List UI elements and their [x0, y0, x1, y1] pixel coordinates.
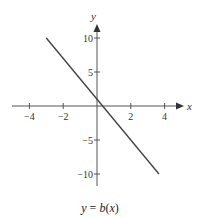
y-tick-label: −10: [77, 169, 93, 180]
y-tick-label: 5: [88, 67, 93, 78]
x-tick-label: 4: [162, 111, 167, 122]
y-tick-label: 10: [83, 33, 93, 44]
x-tick-label: −4: [24, 111, 35, 122]
chart-caption: y = b(x): [0, 201, 200, 216]
x-axis-arrow-icon: [176, 103, 184, 110]
x-tick-label: −2: [58, 111, 69, 122]
chart: x y −4−224105−5−10: [0, 0, 200, 218]
y-tick-label: −5: [82, 135, 93, 146]
x-tick-label: 2: [128, 111, 133, 122]
y-axis-arrow-icon: [94, 24, 101, 32]
y-axis-label: y: [90, 10, 96, 22]
x-axis-label: x: [186, 100, 192, 112]
